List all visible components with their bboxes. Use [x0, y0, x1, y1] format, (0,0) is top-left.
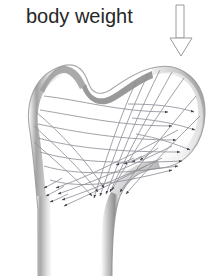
bone-body	[28, 65, 205, 276]
shaft-lateral-cortex	[37, 196, 52, 276]
femur-illustration	[0, 0, 210, 276]
arrow-head-icon	[170, 38, 192, 56]
arrow-shaft	[176, 5, 184, 38]
femur-stress-figure: body weight	[0, 0, 210, 276]
body-weight-arrow	[170, 5, 192, 56]
